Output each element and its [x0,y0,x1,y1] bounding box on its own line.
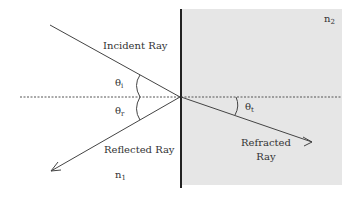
angle-arc-incidence [137,75,141,97]
refracted-ray-label: Refracted Ray [236,136,296,164]
theta-t-label: θt [245,102,254,114]
n1-label: n1 [115,170,126,182]
diagram-canvas [0,0,358,199]
refraction-diagram: Incident Ray θi θr θt Reflected Ray n1 n… [0,0,358,199]
theta-i-label: θi [115,78,123,90]
angle-arc-reflection [137,97,141,120]
incident-ray-label: Incident Ray [103,41,168,51]
reflected-ray-label: Reflected Ray [104,145,175,155]
refracted-label-line2: Ray [236,150,296,164]
theta-r-label: θr [115,106,124,118]
n2-label: n2 [324,14,335,26]
refracted-label-line1: Refracted [236,136,296,150]
